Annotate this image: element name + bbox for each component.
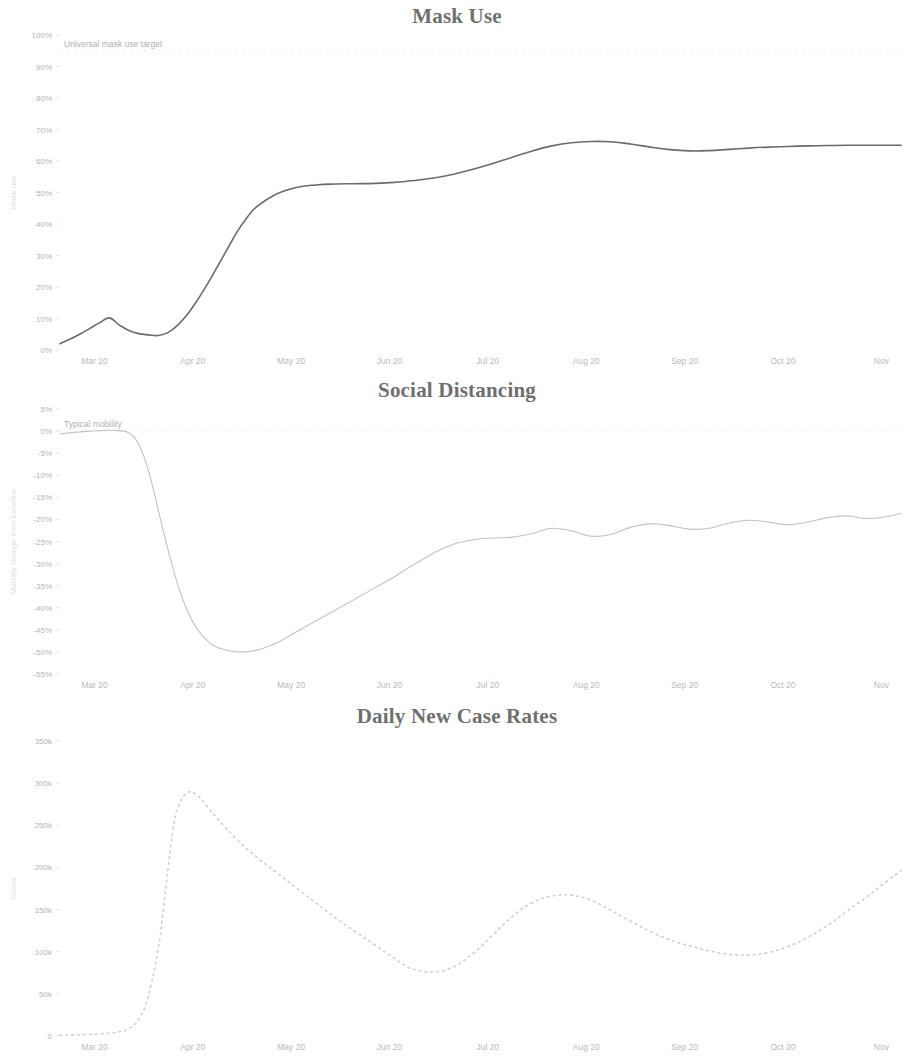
x-axis-tick-label: Apr 20 bbox=[180, 680, 205, 690]
x-axis-tick-label: Jul 20 bbox=[477, 680, 500, 690]
panel-daily-new-case-rates: Daily New Case Rates 050k100k150k200k250… bbox=[0, 696, 914, 1056]
y-axis-tick-label: -50% bbox=[33, 648, 52, 657]
y-axis-tick-label: 60% bbox=[36, 157, 52, 166]
y-axis-title: Mobility change from baseline bbox=[9, 488, 18, 594]
reference-line-label: Universal mask use target bbox=[64, 39, 163, 49]
y-axis-tick-label: -25% bbox=[33, 538, 52, 547]
x-axis-tick-label: Oct 20 bbox=[771, 1042, 796, 1052]
plot-area-mask-use: 0%10%20%30%40%50%60%70%80%90%100%Mar 20A… bbox=[0, 27, 914, 372]
y-axis-tick-label: -55% bbox=[33, 670, 52, 679]
x-axis-tick-label: Jun 20 bbox=[377, 356, 403, 366]
x-axis-tick-label: Aug 20 bbox=[573, 680, 600, 690]
x-axis-tick-label: Oct 20 bbox=[771, 356, 796, 366]
x-axis-tick-label: May 20 bbox=[277, 1042, 305, 1052]
y-axis-tick-label: 10% bbox=[36, 315, 52, 324]
x-axis-tick-label: Apr 20 bbox=[180, 356, 205, 366]
y-axis-tick-label: -40% bbox=[33, 604, 52, 613]
y-axis-tick-label: -5% bbox=[38, 449, 52, 458]
x-axis-tick-label: Apr 20 bbox=[180, 1042, 205, 1052]
plot-area-social-distancing: 5%0%-5%-10%-15%-20%-25%-30%-35%-40%-45%-… bbox=[0, 401, 914, 696]
y-axis-tick-label: -20% bbox=[33, 515, 52, 524]
x-axis-tick-label: Nov bbox=[874, 1042, 890, 1052]
x-axis-tick-label: Jun 20 bbox=[377, 680, 403, 690]
panel-title-daily-new-case-rates: Daily New Case Rates bbox=[0, 696, 914, 727]
x-axis-tick-label: May 20 bbox=[277, 356, 305, 366]
x-axis-tick-label: May 20 bbox=[277, 680, 305, 690]
x-axis-tick-label: Nov bbox=[874, 680, 890, 690]
plot-area-daily-new-case-rates: 050k100k150k200k250k300k350kMar 20Apr 20… bbox=[0, 727, 914, 1056]
y-axis-tick-label: 350k bbox=[35, 737, 53, 746]
y-axis-title: Cases bbox=[9, 877, 18, 900]
x-axis-tick-label: Aug 20 bbox=[573, 356, 600, 366]
y-axis-tick-label: 100k bbox=[35, 948, 53, 957]
series-line-mask bbox=[60, 141, 901, 343]
x-axis-tick-label: Jun 20 bbox=[377, 1042, 403, 1052]
chart-social-distancing: 5%0%-5%-10%-15%-20%-25%-30%-35%-40%-45%-… bbox=[0, 401, 914, 696]
panel-title-social-distancing: Social Distancing bbox=[0, 372, 914, 401]
panel-title-mask-use: Mask Use bbox=[0, 0, 914, 27]
y-axis-tick-label: 40% bbox=[36, 220, 52, 229]
y-axis-tick-label: 200k bbox=[35, 863, 53, 872]
chart-mask-use: 0%10%20%30%40%50%60%70%80%90%100%Mar 20A… bbox=[0, 27, 914, 372]
x-axis-tick-label: Jul 20 bbox=[477, 1042, 500, 1052]
y-axis-tick-label: 70% bbox=[36, 126, 52, 135]
y-axis-tick-label: 50k bbox=[39, 990, 53, 999]
y-axis-tick-label: 0% bbox=[40, 346, 52, 355]
y-axis-tick-label: 150k bbox=[35, 906, 53, 915]
x-axis-tick-label: Aug 20 bbox=[573, 1042, 600, 1052]
x-axis-tick-label: Jul 20 bbox=[477, 356, 500, 366]
x-axis-tick-label: Sep 20 bbox=[671, 356, 698, 366]
y-axis-tick-label: 0% bbox=[40, 427, 52, 436]
y-axis-tick-label: 5% bbox=[40, 405, 52, 414]
y-axis-tick-label: 80% bbox=[36, 94, 52, 103]
x-axis-tick-label: Nov bbox=[874, 356, 890, 366]
y-axis-tick-label: 30% bbox=[36, 252, 52, 261]
x-axis-tick-label: Sep 20 bbox=[671, 680, 698, 690]
y-axis-tick-label: -35% bbox=[33, 582, 52, 591]
y-axis-tick-label: 50% bbox=[36, 189, 52, 198]
y-axis-tick-label: 20% bbox=[36, 283, 52, 292]
y-axis-tick-label: -30% bbox=[33, 560, 52, 569]
x-axis-tick-label: Mar 20 bbox=[81, 1042, 108, 1052]
x-axis-tick-label: Oct 20 bbox=[771, 680, 796, 690]
chart-daily-new-case-rates: 050k100k150k200k250k300k350kMar 20Apr 20… bbox=[0, 727, 914, 1056]
series-line-social bbox=[60, 430, 901, 652]
y-axis-tick-label: 90% bbox=[36, 63, 52, 72]
y-axis-tick-label: 100% bbox=[32, 31, 52, 40]
panel-mask-use: Mask Use 0%10%20%30%40%50%60%70%80%90%10… bbox=[0, 0, 914, 372]
y-axis-tick-label: 0 bbox=[48, 1032, 53, 1041]
y-axis-title: Mask use bbox=[9, 175, 18, 210]
y-axis-tick-label: -15% bbox=[33, 493, 52, 502]
y-axis-tick-label: 300k bbox=[35, 779, 53, 788]
series-line-cases bbox=[60, 792, 901, 1036]
panel-social-distancing: Social Distancing 5%0%-5%-10%-15%-20%-25… bbox=[0, 372, 914, 696]
y-axis-tick-label: 250k bbox=[35, 821, 53, 830]
y-axis-tick-label: -10% bbox=[33, 471, 52, 480]
reference-line-label: Typical mobility bbox=[64, 419, 122, 429]
y-axis-tick-label: -45% bbox=[33, 626, 52, 635]
x-axis-tick-label: Sep 20 bbox=[671, 1042, 698, 1052]
x-axis-tick-label: Mar 20 bbox=[81, 680, 108, 690]
x-axis-tick-label: Mar 20 bbox=[81, 356, 108, 366]
